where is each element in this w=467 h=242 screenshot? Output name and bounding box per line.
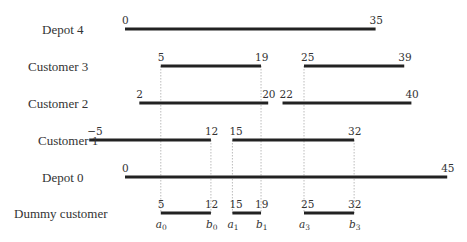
interval-start: 25 xyxy=(301,51,314,63)
interval-start: 5 xyxy=(158,198,165,210)
interval-start: 15 xyxy=(229,198,242,210)
interval-start: 0 xyxy=(122,162,129,174)
row-label: Depot 0 xyxy=(42,170,84,185)
time-window-diagram: Depot 4035Customer 35192539Customer 2220… xyxy=(0,0,467,242)
interval-end: 19 xyxy=(255,198,268,210)
row-label: Customer 2 xyxy=(28,96,88,111)
dummy-bound-label: b3 xyxy=(349,218,361,232)
interval-end: 39 xyxy=(398,51,411,63)
interval-end: 32 xyxy=(348,125,361,137)
interval-start: 25 xyxy=(301,198,314,210)
interval-end: 19 xyxy=(255,51,268,63)
dummy-bound-label: a0 xyxy=(156,218,167,232)
dummy-bound-label: b0 xyxy=(206,218,218,232)
row-label: Customer 3 xyxy=(28,59,88,74)
interval-end: 12 xyxy=(205,125,218,137)
dummy-bound-label: a3 xyxy=(299,218,310,232)
interval-start: 5 xyxy=(158,51,165,63)
dummy-bound-label: b1 xyxy=(256,218,268,232)
interval-start: −5 xyxy=(87,125,102,137)
interval-start: 22 xyxy=(280,88,293,100)
dummy-bound-label: a1 xyxy=(227,218,238,232)
interval-start: 15 xyxy=(229,125,242,137)
interval-end: 40 xyxy=(405,88,418,100)
row-labels: Depot 4035Customer 35192539Customer 2220… xyxy=(14,14,455,232)
interval-start: 0 xyxy=(122,14,129,26)
interval-start: 2 xyxy=(136,88,143,100)
row-label: Dummy customer xyxy=(14,206,108,221)
interval-end: 45 xyxy=(441,162,454,174)
interval-end: 32 xyxy=(348,198,361,210)
row-label: Depot 4 xyxy=(42,22,84,37)
interval-end: 12 xyxy=(205,198,218,210)
interval-end: 20 xyxy=(262,88,275,100)
interval-end: 35 xyxy=(370,14,383,26)
